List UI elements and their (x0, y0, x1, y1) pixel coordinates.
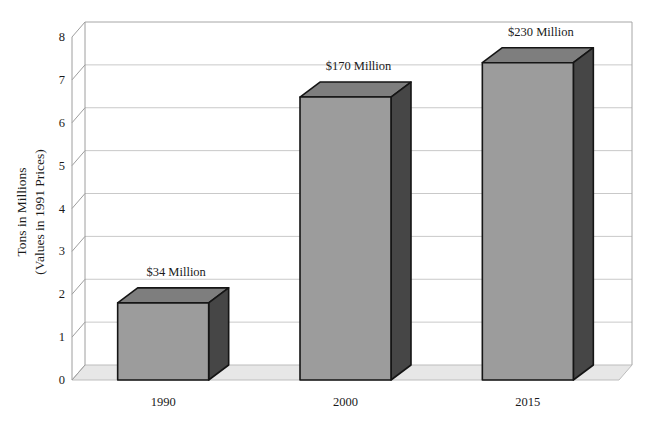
bar-front-face (482, 63, 573, 380)
y-tick-label: 4 (59, 202, 66, 216)
bar-value-label: $230 Million (508, 25, 574, 39)
y-axis-tick (72, 236, 85, 251)
bar-value-label: $34 Million (146, 265, 206, 279)
y-tick-label: 3 (59, 244, 65, 258)
y-tick-label: 7 (59, 73, 65, 87)
y-axis-tick (72, 65, 85, 80)
y-tick-label: 2 (59, 287, 65, 301)
x-category-label: 1990 (151, 395, 176, 409)
y-tick-label: 8 (59, 30, 65, 44)
y-axis-tick (72, 279, 85, 294)
bar-side-face (391, 82, 411, 380)
bar-side-face (209, 288, 229, 380)
x-category-label: 2000 (333, 395, 358, 409)
y-axis-tick (72, 151, 85, 166)
x-category-label: 2015 (515, 395, 540, 409)
bar-front-face (118, 303, 209, 380)
y-axis-tick (72, 108, 85, 123)
y-tick-label: 0 (59, 373, 65, 387)
y-tick-label: 6 (59, 116, 65, 130)
bar-front-face (300, 97, 391, 380)
chart-figure: Tons in Millions (Values in 1991 Prices)… (0, 0, 648, 422)
y-tick-label: 5 (59, 159, 65, 173)
bar-side-face (573, 48, 593, 380)
y-axis-tick (72, 22, 85, 37)
y-axis-tick (72, 322, 85, 337)
bar-value-label: $170 Million (326, 59, 392, 73)
y-tick-label: 1 (59, 330, 65, 344)
bar-chart-canvas: 012345678$34 Million1990$170 Million2000… (0, 0, 648, 422)
y-axis-tick (72, 194, 85, 209)
